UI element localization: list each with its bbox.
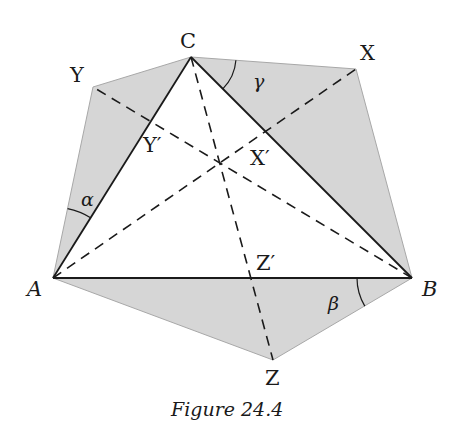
label-x-prime: X′ bbox=[250, 146, 270, 170]
label-y-prime: Y′ bbox=[142, 133, 162, 157]
figure-caption: Figure 24.4 bbox=[170, 398, 283, 420]
label-y: Y bbox=[69, 63, 85, 87]
label-z-prime: Z′ bbox=[256, 251, 276, 275]
label-b: B bbox=[421, 277, 437, 301]
label-alpha: α bbox=[81, 188, 94, 210]
geometry-figure: A B C X Y Z X′ Y′ Z′ α β γ Figure 24.4 bbox=[0, 0, 462, 425]
label-z: Z bbox=[265, 366, 280, 390]
label-beta: β bbox=[327, 292, 339, 314]
label-a: A bbox=[25, 277, 42, 301]
label-c: C bbox=[180, 29, 196, 53]
label-gamma: γ bbox=[253, 70, 265, 92]
label-x: X bbox=[360, 41, 375, 65]
